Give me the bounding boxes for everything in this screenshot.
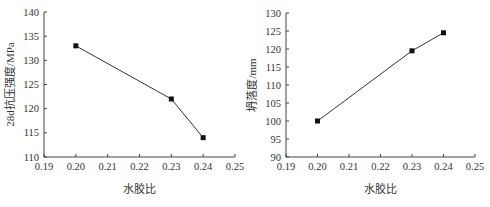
x-tick-label: 0.19 — [277, 161, 295, 172]
x-tick-label: 0.19 — [35, 161, 53, 172]
data-point-marker — [441, 30, 446, 35]
chart-figure: 0.190.200.210.220.230.240.25110115120125… — [0, 0, 490, 207]
y-tick-label: 135 — [23, 31, 39, 42]
data-point-marker — [201, 135, 206, 140]
x-tick-label: 0.21 — [340, 161, 358, 172]
y-tick-label: 110 — [24, 152, 39, 163]
y-axis-label: 坍落度/mm — [245, 58, 258, 112]
x-tick-label: 0.25 — [466, 161, 484, 172]
x-tick-label: 0.24 — [434, 161, 453, 172]
y-tick-label: 140 — [23, 7, 39, 18]
y-tick-label: 115 — [266, 62, 281, 73]
data-line — [76, 46, 203, 138]
x-tick-label: 0.23 — [403, 161, 421, 172]
x-tick-label: 0.23 — [162, 161, 180, 172]
x-tick-label: 0.24 — [194, 161, 213, 172]
y-tick-label: 95 — [271, 134, 282, 145]
y-tick-label: 125 — [23, 79, 39, 90]
data-point-marker — [410, 48, 415, 53]
x-tick-label: 0.22 — [130, 161, 148, 172]
y-tick-label: 120 — [265, 44, 281, 55]
x-axis-label: 水胶比 — [123, 182, 156, 195]
y-tick-label: 115 — [24, 127, 39, 138]
x-tick-label: 0.22 — [371, 161, 389, 172]
x-tick-label: 0.21 — [98, 161, 116, 172]
x-tick-label: 0.25 — [226, 161, 244, 172]
y-axis-label: 28d抗压强度/MPa — [3, 42, 16, 126]
x-axis-label: 水胶比 — [364, 182, 397, 195]
y-tick-label: 105 — [265, 98, 281, 109]
y-tick-label: 90 — [271, 152, 282, 163]
data-point-marker — [315, 119, 320, 124]
y-tick-label: 100 — [265, 116, 281, 127]
y-tick-label: 110 — [266, 80, 281, 91]
x-tick-label: 0.20 — [67, 161, 85, 172]
data-point-marker — [169, 97, 174, 102]
y-tick-label: 125 — [265, 26, 281, 37]
y-tick-label: 130 — [265, 8, 281, 19]
y-tick-label: 120 — [23, 103, 39, 114]
y-tick-label: 130 — [23, 55, 39, 66]
x-tick-label: 0.20 — [308, 161, 326, 172]
data-line — [318, 33, 444, 121]
data-point-marker — [73, 43, 78, 48]
